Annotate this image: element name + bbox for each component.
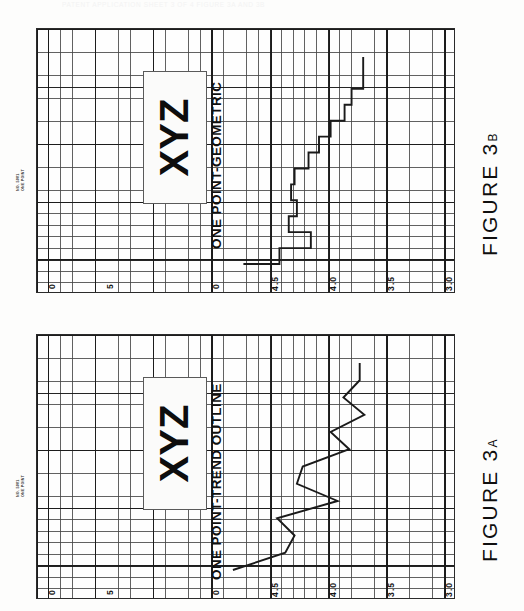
panel-figure-3a: NO. 5001 ONE POINT 0 5 0 4.5 4.0 3.5 3.0… bbox=[0, 312, 524, 611]
figure-number: 3 bbox=[478, 142, 501, 156]
axis-rule-outer-left bbox=[48, 335, 49, 598]
minor-gridlines bbox=[37, 29, 454, 292]
tick-3a-45: 4.5 bbox=[270, 582, 280, 597]
tick-3a-left-5: 5 bbox=[105, 589, 115, 595]
stock-number-stamp-3a: NO. 5001 ONE POINT bbox=[16, 475, 27, 497]
major-gridlines bbox=[37, 29, 454, 292]
stock-number-stamp: NO. 5001 ONE POINT bbox=[16, 169, 27, 191]
tick-3b-40: 4.0 bbox=[328, 276, 338, 291]
xyz-callout-3a: XYZ bbox=[143, 377, 207, 510]
graph-paper-3a: 0 5 0 4.5 4.0 3.5 3.0 ONE POINT-TREND OU… bbox=[36, 334, 455, 599]
tick-3b-left-0: 0 bbox=[47, 283, 57, 289]
tick-3b-45: 4.5 bbox=[270, 276, 280, 291]
panel-figure-3b: NO. 5001 ONE POINT 0 5 0 4.5 4.0 3.5 3.0… bbox=[0, 6, 524, 306]
tick-3a-30: 3.0 bbox=[444, 582, 454, 597]
axis-rule-45 bbox=[271, 29, 272, 292]
figure-suffix: B bbox=[486, 133, 500, 142]
chart-title-3b: ONE POINT-GEOMETRIC bbox=[209, 82, 224, 249]
major-gridlines bbox=[37, 335, 454, 598]
data-trace-3a bbox=[37, 335, 456, 600]
xyz-callout-3b: XYZ bbox=[143, 71, 207, 204]
chart-title-3a: ONE POINT-TREND OUTLINE bbox=[209, 383, 224, 580]
figure-caption-3a: FIGURE 3A bbox=[478, 439, 502, 563]
data-trace-3b bbox=[37, 29, 456, 294]
tick-3a-left-0b: 0 bbox=[211, 589, 221, 595]
axis-rule-40 bbox=[329, 335, 330, 598]
axis-rule-35 bbox=[387, 29, 388, 292]
axis-rule-outer-left bbox=[48, 29, 49, 292]
stamp-line-2: ONE POINT bbox=[21, 169, 26, 191]
axis-rule-30 bbox=[445, 335, 446, 598]
graph-paper-3b: 0 5 0 4.5 4.0 3.5 3.0 ONE POINT-GEOMETRI… bbox=[36, 28, 455, 293]
axis-rule-45 bbox=[271, 335, 272, 598]
figure-word: FIGURE bbox=[478, 163, 501, 256]
tick-3b-35: 3.5 bbox=[386, 276, 396, 291]
tick-3b-30: 3.0 bbox=[444, 276, 454, 291]
tick-3a-left-0: 0 bbox=[47, 589, 57, 595]
stamp-line-2: ONE POINT bbox=[21, 475, 26, 497]
figure-suffix: A bbox=[486, 439, 500, 448]
figure-number: 3 bbox=[478, 448, 501, 462]
tick-3b-left-5: 5 bbox=[105, 283, 115, 289]
figure-caption-3b: FIGURE 3B bbox=[478, 133, 502, 257]
xyz-label: XYZ bbox=[153, 99, 198, 177]
minor-gridlines bbox=[37, 335, 454, 598]
tick-3b-left-0b: 0 bbox=[211, 283, 221, 289]
tick-3a-40: 4.0 bbox=[328, 582, 338, 597]
figure-sheet: PATENT APPLICATION SHEET 3 OF 4 FIGURE 3… bbox=[0, 0, 524, 611]
axis-rule-40 bbox=[329, 29, 330, 292]
tick-3a-35: 3.5 bbox=[386, 582, 396, 597]
axis-rule-30 bbox=[445, 29, 446, 292]
axis-rule-35 bbox=[387, 335, 388, 598]
xyz-label: XYZ bbox=[153, 405, 198, 483]
figure-word: FIGURE bbox=[478, 469, 501, 562]
